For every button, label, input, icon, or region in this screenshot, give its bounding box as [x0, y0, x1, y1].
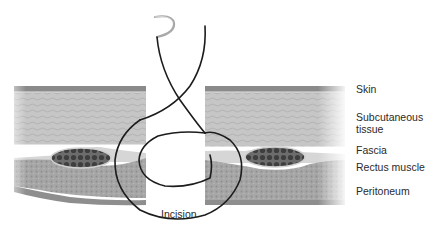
right-tissue-block — [205, 84, 348, 208]
label-fascia: Fascia — [356, 144, 387, 156]
left-tissue-block — [0, 84, 146, 208]
left-skin-layer — [14, 86, 146, 91]
label-peritoneum: Peritoneum — [356, 185, 410, 197]
left-rectus-muscle — [51, 148, 111, 168]
right-rectus-muscle — [245, 147, 305, 167]
left-subcutaneous-layer — [14, 93, 146, 145]
label-rectus-muscle: Rectus muscle — [356, 161, 425, 173]
label-incision: Incision — [161, 208, 197, 220]
label-skin: Skin — [356, 83, 376, 95]
label-subcutaneous-tissue: Subcutaneous tissue — [356, 111, 423, 135]
